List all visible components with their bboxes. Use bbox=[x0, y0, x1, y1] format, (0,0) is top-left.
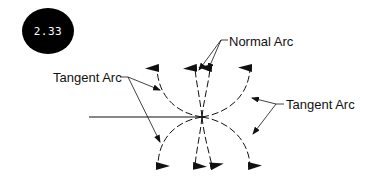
normal-arc-lower-right bbox=[202, 117, 212, 166]
normal-arc-upper-right bbox=[202, 68, 210, 117]
tangent-arc-left-leader bbox=[120, 77, 160, 142]
normal-arc-upper-left bbox=[195, 68, 202, 117]
tangent-arc-left-label: Tangent Arc bbox=[53, 70, 122, 85]
tangent-arc-lower-right bbox=[202, 117, 250, 166]
tangent-arc-right-label: Tangent Arc bbox=[286, 97, 355, 112]
arc-diagram: Normal Arc Tangent Arc Tangent Arc bbox=[0, 0, 373, 179]
normal-arc-lower-left bbox=[195, 117, 202, 166]
normal-arc-leader bbox=[199, 40, 228, 70]
normal-arc-label: Normal Arc bbox=[229, 34, 294, 49]
tangent-arc-right-leader bbox=[252, 98, 284, 134]
